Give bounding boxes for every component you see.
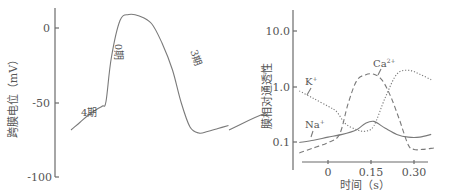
right-chart: 10.0 1.0 0.1 膜相对通透性 0 0.15 0.30 时间（s） K+…	[260, 10, 434, 192]
k-label-sup: +	[312, 75, 317, 82]
right-xtick-label-0: 0	[325, 166, 332, 179]
k-leader-line	[307, 88, 311, 95]
right-ytick-label-0.1: 0.1	[273, 136, 291, 149]
ca-label-text: Ca	[373, 58, 387, 69]
left-ytick-label-minus100: -100	[27, 171, 52, 184]
series-layer	[299, 70, 434, 153]
series-line-ca	[299, 74, 434, 153]
left-ytick-label-0: 0	[43, 22, 50, 35]
right-ytick-label-10: 10.0	[266, 25, 291, 38]
phase0-label: 0期	[113, 44, 124, 60]
na-leader-line	[311, 131, 313, 137]
na-series-label: Na+	[305, 118, 325, 130]
right-xtick-label-0.15: 0.15	[359, 166, 384, 179]
phase4-label: 4期	[81, 107, 97, 118]
right-y-axis-title: 膜相对通透性	[260, 63, 274, 129]
phase3-label: 3期	[188, 48, 204, 67]
ca-series-label: Ca2+	[373, 57, 395, 69]
na-label-sup: +	[320, 118, 325, 125]
right-xtick-label-0.30: 0.30	[402, 166, 427, 179]
ca-label-sup: 2+	[387, 57, 396, 64]
na-label-text: Na	[305, 119, 320, 130]
k-series-label: K+	[305, 75, 318, 87]
left-y-axis-title: 跨膜电位（mV）	[6, 54, 20, 138]
figure: 0 -50 -100 跨膜电位（mV） 4期 0期 3期 10.0 1.0 0.…	[0, 0, 451, 192]
left-ytick-label-minus50: -50	[32, 97, 50, 110]
right-x-axis-title: 时间（s）	[340, 179, 390, 192]
right-ytick-label-1: 1.0	[273, 81, 291, 94]
ca-leader-line	[378, 69, 381, 75]
left-chart: 0 -50 -100 跨膜电位（mV） 4期 0期 3期	[6, 8, 229, 184]
